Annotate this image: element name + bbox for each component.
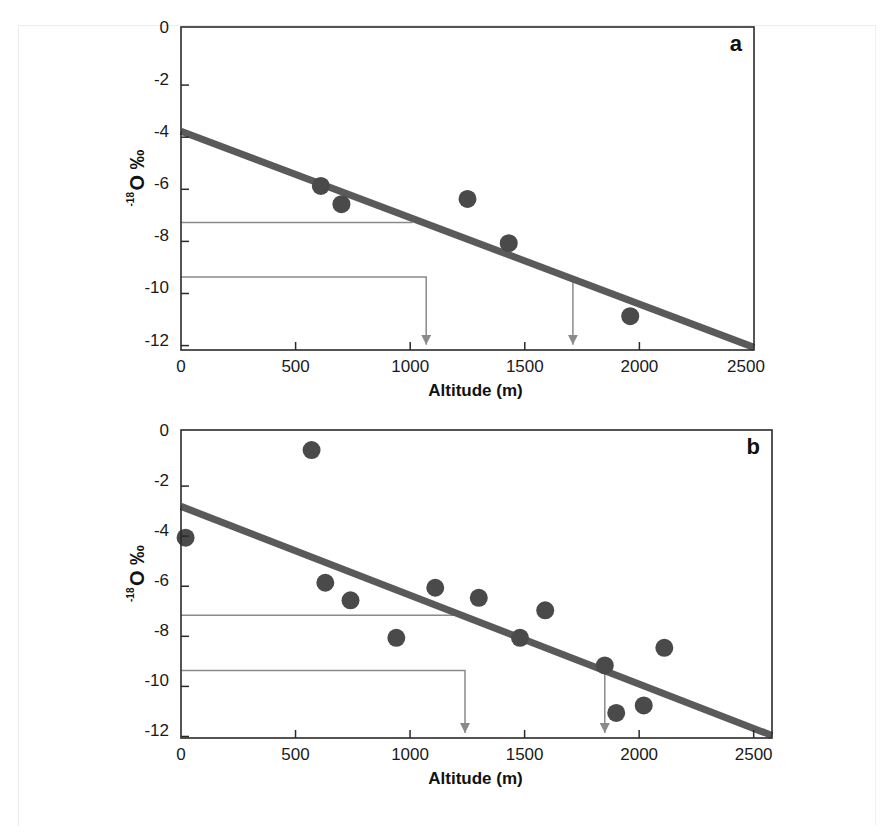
plot-area-border	[181, 27, 754, 350]
data-point	[607, 704, 625, 722]
y-tick-label: -10	[144, 278, 169, 297]
data-point	[655, 639, 673, 657]
y-axis-title: -18O ‰	[125, 545, 148, 602]
x-tick-label: 1500	[506, 745, 544, 764]
y-axis-title-superscript: -18	[125, 192, 136, 207]
data-point	[596, 656, 614, 674]
data-point	[426, 579, 444, 597]
data-point	[511, 629, 529, 647]
x-tick-label: 2500	[735, 745, 773, 764]
x-tick-label: 1000	[391, 357, 429, 376]
x-axis-title: Altitude (m)	[428, 381, 522, 400]
data-point	[177, 529, 195, 547]
panel-b: 050010001500200025000-2-4-6-8-10-12Altit…	[125, 421, 773, 788]
y-tick-label: -8	[154, 621, 169, 640]
data-point	[536, 601, 554, 619]
y-axis-title-superscript: -18	[125, 587, 136, 602]
data-point	[459, 190, 477, 208]
data-point	[316, 574, 334, 592]
data-point	[303, 441, 321, 459]
data-point	[342, 591, 360, 609]
y-tick-label: -2	[154, 471, 169, 490]
panel-label: b	[747, 434, 760, 459]
y-tick-label: -12	[144, 721, 169, 740]
y-tick-label: -6	[154, 174, 169, 193]
plot-area-border	[181, 430, 772, 738]
figure: 050010001500200025000-2-4-6-8-10-12Altit…	[0, 0, 882, 833]
x-tick-label: 2500	[727, 357, 765, 376]
y-tick-label: -12	[144, 331, 169, 350]
data-point	[470, 589, 488, 607]
y-axis-title-main: O ‰	[126, 149, 148, 190]
x-tick-label: 0	[176, 745, 185, 764]
y-tick-label: -8	[154, 226, 169, 245]
data-point	[635, 696, 653, 714]
data-point	[621, 307, 639, 325]
x-tick-label: 0	[176, 357, 185, 376]
data-point	[312, 177, 330, 195]
panel-a: 050010001500200025000-2-4-6-8-10-12Altit…	[125, 18, 765, 400]
x-tick-label: 1000	[391, 745, 429, 764]
y-tick-label: -4	[154, 521, 169, 540]
y-tick-label: -2	[154, 70, 169, 89]
y-tick-label: -10	[144, 671, 169, 690]
x-tick-label: 500	[281, 357, 309, 376]
regression-line	[181, 506, 772, 735]
x-tick-label: 500	[281, 745, 309, 764]
data-point	[387, 629, 405, 647]
y-axis-title-main: O ‰	[126, 545, 148, 586]
y-tick-label: -4	[154, 122, 169, 141]
regression-line	[181, 131, 754, 347]
panel-label: a	[730, 31, 743, 56]
y-tick-label: 0	[160, 421, 169, 440]
x-tick-label: 2000	[620, 357, 658, 376]
x-tick-label: 1500	[506, 357, 544, 376]
y-tick-label: 0	[160, 18, 169, 37]
y-tick-label: -6	[154, 571, 169, 590]
x-axis-title: Altitude (m)	[428, 769, 522, 788]
guide-line	[181, 277, 426, 345]
guide-line	[181, 670, 465, 733]
x-tick-label: 2000	[620, 745, 658, 764]
data-point	[500, 234, 518, 252]
data-point	[332, 195, 350, 213]
y-axis-title: -18O ‰	[125, 149, 148, 206]
